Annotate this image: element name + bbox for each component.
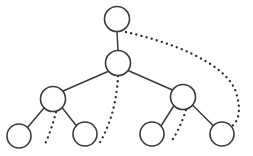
tree-node-n1[interactable] — [105, 7, 130, 32]
tree-diagram-canvas — [0, 0, 253, 156]
tree-node-n5[interactable] — [7, 124, 31, 148]
tree-node-n2[interactable] — [106, 51, 131, 76]
tree-node-n7[interactable] — [140, 122, 164, 146]
tree-node-n4[interactable] — [171, 85, 196, 110]
tree-node-n3[interactable] — [41, 87, 66, 112]
tree-node-n6[interactable] — [73, 122, 97, 146]
solid-edge-n1-to-n2 — [117, 32, 118, 51]
tree-diagram-svg — [0, 0, 253, 156]
tree-node-n8[interactable] — [210, 122, 234, 146]
